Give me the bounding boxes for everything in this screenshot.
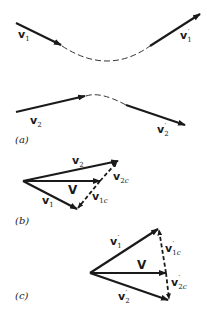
- panel-b: v2 V v1 v2c v1c (b): [15, 154, 129, 226]
- v1-prime-arrow-c: [90, 229, 158, 273]
- label-v1-prime: v1′: [180, 28, 192, 44]
- label-v1: v1: [18, 28, 30, 43]
- label-v1c-prime-c: v1c′: [165, 240, 181, 257]
- collision-vector-diagram: v1 v1′ v2 v2′ (a) v2 V v1 v2c v1c (b) v1…: [0, 0, 207, 324]
- label-v1c-b: v1c: [92, 190, 108, 205]
- label-v2: v2: [30, 114, 42, 129]
- v1-prime-arrow: [150, 14, 200, 46]
- label-v2-prime-c: v2′: [118, 289, 130, 305]
- v2c-prime-arrow-c: [166, 273, 169, 299]
- trajectory-2-dashed: [86, 95, 126, 105]
- label-v2-prime: v2′: [157, 122, 169, 138]
- trajectory-1-dashed: [62, 46, 150, 61]
- panel-label-a: (a): [15, 134, 29, 145]
- panel-a: v1 v1′ v2 v2′ (a): [15, 14, 200, 145]
- v2-prime-arrow: [126, 105, 185, 125]
- panel-label-b: (b): [15, 215, 29, 226]
- label-v1-prime-c: v1′: [110, 234, 122, 250]
- label-v2c-prime-c: v2c′: [171, 274, 187, 291]
- panel-label-c: (c): [15, 290, 29, 301]
- label-V-c: V: [137, 258, 147, 272]
- panel-c: v1′ V v2′ v1c′ v2c′ (c): [15, 229, 187, 305]
- label-V-b: V: [68, 183, 78, 197]
- label-v2c-b: v2c: [113, 170, 129, 185]
- v2-arrow-b: [23, 161, 118, 181]
- v2-prime-arrow-c: [90, 273, 168, 300]
- v2-arrow: [16, 96, 85, 112]
- label-v2-b: v2: [72, 154, 84, 169]
